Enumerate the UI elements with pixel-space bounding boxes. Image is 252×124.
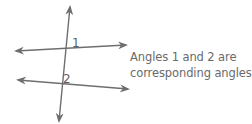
caption-text: Angles 1 and 2 are corresponding angles. xyxy=(130,49,252,81)
corresponding-angles-figure: 1 2 Angles 1 and 2 are corresponding ang… xyxy=(0,0,252,124)
upper-parallel-line xyxy=(16,45,126,51)
caption-line-2: corresponding angles. xyxy=(130,65,252,81)
angle-label-1: 1 xyxy=(72,36,80,50)
lower-parallel-line xyxy=(18,80,128,89)
caption-line-1: Angles 1 and 2 are xyxy=(130,49,252,65)
angle-label-2: 2 xyxy=(63,72,71,86)
line-diagram: 1 2 xyxy=(0,0,130,124)
transversal-line xyxy=(59,7,70,121)
